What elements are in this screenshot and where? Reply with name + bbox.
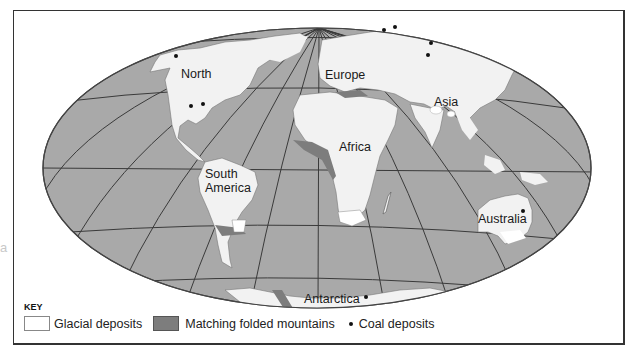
- key-glacial-label: Glacial deposits: [54, 317, 142, 331]
- key-legend: Glacial deposits Matching folded mountai…: [24, 316, 434, 331]
- glacial-swatch-icon: [24, 316, 50, 331]
- label-north: North: [181, 67, 212, 81]
- label-south-america-2: America: [205, 181, 251, 195]
- key-folded-label: Matching folded mountains: [185, 317, 334, 331]
- label-antarctica: Antarctica: [304, 292, 360, 306]
- label-africa: Africa: [339, 140, 371, 154]
- key-coal-label: Coal deposits: [359, 317, 435, 331]
- label-asia: Asia: [434, 95, 458, 109]
- glacial-asia-2: [447, 111, 455, 117]
- coal-dot-icon: [349, 322, 353, 326]
- glacial-south-america: [232, 220, 246, 232]
- label-south-america-1: South: [205, 167, 238, 181]
- key-title: KEY: [24, 302, 43, 312]
- label-europe: Europe: [325, 68, 365, 82]
- folded-mountains-swatch-icon: [153, 316, 179, 331]
- label-australia: Australia: [478, 212, 527, 226]
